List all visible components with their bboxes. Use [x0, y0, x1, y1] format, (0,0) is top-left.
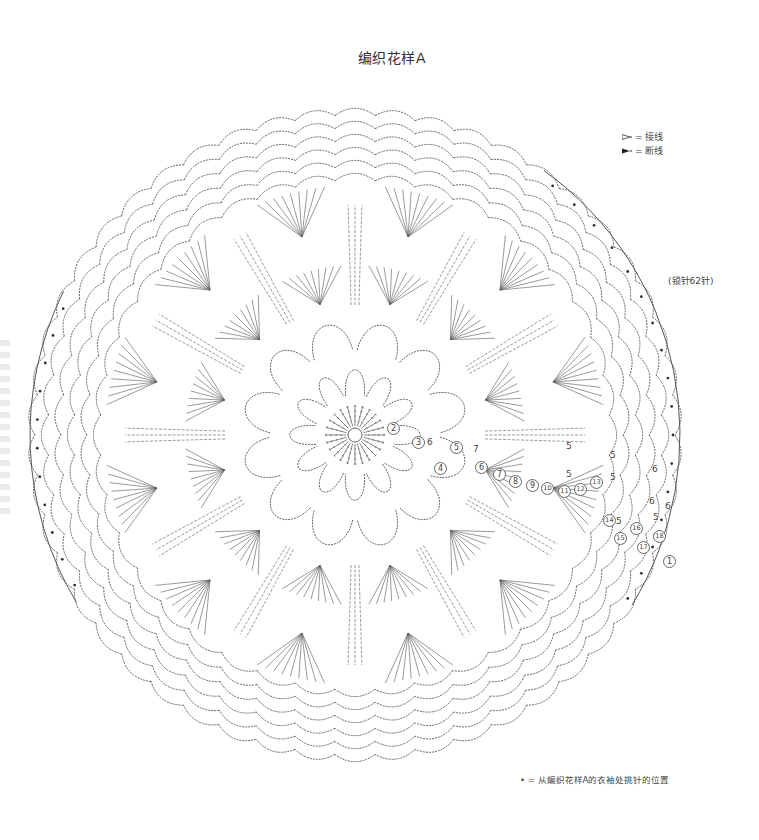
round-number-label: 17 — [637, 541, 650, 554]
round-number-label: 7 — [493, 468, 506, 481]
round-number-label: 8 — [509, 475, 522, 488]
round-number-label: 15 — [614, 532, 627, 545]
round-number-label: 2 — [387, 422, 400, 435]
round-number-label: 18 — [653, 530, 666, 543]
chain-count-label: 5 — [566, 441, 572, 451]
round-number-label: 11 — [558, 485, 571, 498]
round-number-label: 16 — [630, 522, 643, 535]
round-number-label: 12 — [574, 483, 587, 496]
crochet-chart — [0, 0, 759, 840]
chain-count-label: 5 — [610, 450, 616, 460]
round-number-label: 4 — [434, 462, 447, 475]
round-number-label: 1 — [663, 555, 676, 568]
round-number-label: 3 — [412, 436, 425, 449]
chain-count-label: 5 — [610, 472, 616, 482]
round-number-label: 5 — [450, 441, 463, 454]
chain-count-label: 6 — [649, 496, 655, 506]
round-number-label: 13 — [590, 476, 603, 489]
round-number-label: 10 — [541, 482, 554, 495]
chain-count-label: 7 — [473, 444, 479, 454]
chain-count-label: 6 — [427, 437, 433, 447]
round-number-label: 14 — [603, 514, 616, 527]
round-number-label: 9 — [526, 479, 539, 492]
chain-count-label: 5 — [616, 516, 622, 526]
round-number-label: 6 — [475, 461, 488, 474]
chain-count-label: 6 — [665, 501, 671, 511]
chain-count-label: 5 — [566, 469, 572, 479]
chain-count-label: 5 — [653, 512, 659, 522]
chain-count-label: 6 — [652, 464, 658, 474]
